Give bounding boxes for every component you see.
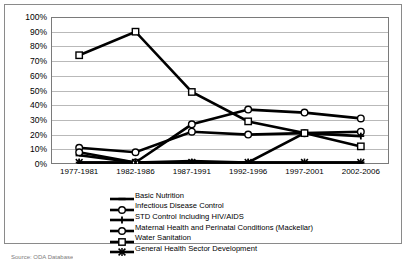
legend-item: Basic Nutrition: [109, 190, 389, 201]
data-point-marker: [245, 106, 252, 113]
legend-item-label: General Health Sector Development: [135, 244, 257, 253]
series-line: [79, 32, 361, 147]
x-tick-label: 2002-2006: [326, 167, 396, 176]
legend-item: STD Control Including HIV/AIDS: [109, 211, 389, 222]
legend-item: Water Sanitation: [109, 232, 389, 243]
source-caption: Source: ODA Database: [11, 254, 73, 262]
chart-legend: Basic NutritionInfectious Disease Contro…: [109, 190, 389, 254]
data-point-marker: [76, 149, 83, 156]
y-tick-label: 60%: [7, 72, 47, 80]
chart-lines: [51, 17, 389, 164]
data-point-marker: [245, 118, 251, 124]
legend-item-label: Maternal Health and Perinatal Conditions…: [135, 223, 313, 232]
legend-item-label: Water Sanitation: [135, 233, 191, 242]
legend-marker-star-icon: [109, 243, 135, 253]
chart-frame: 100%90%80%70%60%50%40%30%20%10%0% 1977-1…: [4, 4, 402, 244]
data-point-marker: [245, 131, 252, 138]
data-point-marker: [358, 115, 365, 122]
y-tick-label: 80%: [7, 42, 47, 50]
legend-item: Infectious Disease Control: [109, 201, 389, 212]
y-tick-label: 40%: [7, 101, 47, 109]
legend-item-label: Infectious Disease Control: [135, 201, 224, 210]
y-tick-label: 70%: [7, 57, 47, 65]
data-point-marker: [132, 29, 138, 35]
data-point-marker: [189, 89, 195, 95]
data-point-marker: [358, 143, 364, 149]
legend-marker-plus-icon: [109, 211, 135, 221]
data-point-marker: [189, 128, 196, 135]
legend-item-label: Basic Nutrition: [135, 191, 184, 200]
legend-marker-square-icon: [109, 233, 135, 243]
legend-item-label: STD Control Including HIV/AIDS: [135, 212, 244, 221]
legend-item: General Health Sector Development: [109, 243, 389, 254]
y-tick-label: 0%: [7, 160, 47, 168]
legend-item: Maternal Health and Perinatal Conditions…: [109, 222, 389, 233]
x-axis: 1977-19811982-19861987-19911992-19961997…: [51, 167, 389, 181]
y-tick-label: 100%: [7, 13, 47, 21]
data-point-marker: [301, 109, 308, 116]
legend-marker-dash-icon: [109, 190, 135, 200]
legend-marker-circle-icon: [109, 201, 135, 211]
data-point-marker: [76, 52, 82, 58]
legend-marker-circle-open-icon: [109, 222, 135, 232]
y-tick-label: 30%: [7, 116, 47, 124]
y-tick-label: 50%: [7, 87, 47, 95]
data-point-marker: [301, 130, 307, 136]
y-tick-label: 90%: [7, 28, 47, 36]
data-point-marker: [189, 121, 196, 128]
y-tick-label: 20%: [7, 131, 47, 139]
y-axis: 100%90%80%70%60%50%40%30%20%10%0%: [5, 17, 47, 164]
y-tick-label: 10%: [7, 145, 47, 153]
data-point-marker: [132, 149, 139, 156]
